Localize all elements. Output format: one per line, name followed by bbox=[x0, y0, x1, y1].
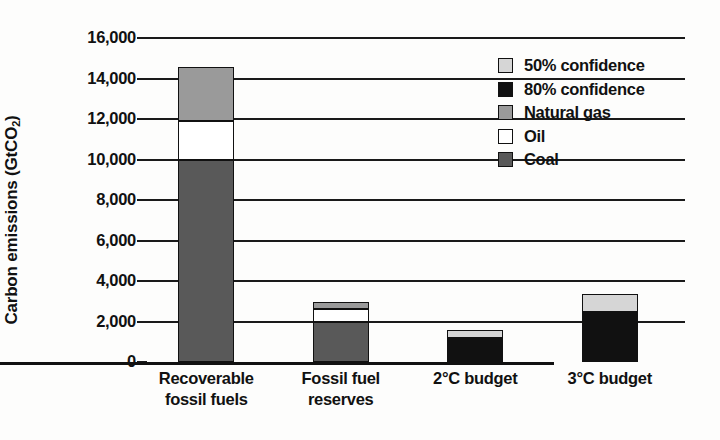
bar-segment[interactable] bbox=[582, 294, 638, 312]
y-axis-tick-mark bbox=[137, 37, 147, 39]
y-axis-tick-mark bbox=[137, 159, 147, 161]
y-axis-tick-label: 2,000 bbox=[96, 312, 136, 331]
legend-item[interactable]: Oil bbox=[498, 125, 698, 149]
chart-container: Carbon emissions (GtCO2) 16,00014,00012,… bbox=[0, 0, 720, 440]
x-axis-label-line: Fossil fuel bbox=[274, 368, 409, 389]
bar-stack[interactable] bbox=[313, 302, 369, 362]
bar-segment[interactable] bbox=[178, 160, 234, 362]
x-axis-label-line: Recoverable bbox=[139, 368, 274, 389]
gridline bbox=[147, 37, 685, 39]
y-axis-tick-label: 4,000 bbox=[96, 271, 136, 290]
legend-swatch-icon bbox=[498, 105, 513, 120]
legend-item[interactable]: Coal bbox=[498, 148, 698, 172]
legend-swatch-icon bbox=[498, 152, 513, 167]
y-axis-tick-mark bbox=[137, 280, 147, 282]
legend-swatch-icon bbox=[498, 82, 513, 97]
bar-stack[interactable] bbox=[582, 294, 638, 362]
chart-legend: 50% confidence80% confidenceNatural gasO… bbox=[498, 54, 698, 172]
x-axis-label-line: fossil fuels bbox=[139, 389, 274, 410]
legend-item[interactable]: Natural gas bbox=[498, 101, 698, 125]
y-axis-tick-label: 12,000 bbox=[87, 109, 136, 128]
y-axis-tick-mark bbox=[137, 240, 147, 242]
bar-segment[interactable] bbox=[313, 322, 369, 362]
x-axis-category-label: Recoverablefossil fuels bbox=[139, 368, 274, 410]
y-axis-tick-labels: 16,00014,00012,00010,0008,0006,0004,0002… bbox=[28, 0, 136, 440]
y-axis-tick-label: 8,000 bbox=[96, 190, 136, 209]
legend-label: 50% confidence bbox=[524, 56, 645, 75]
y-axis-tick-mark bbox=[137, 118, 147, 120]
legend-swatch-icon bbox=[498, 58, 513, 73]
bar-segment[interactable] bbox=[447, 330, 503, 338]
bar-segment[interactable] bbox=[582, 312, 638, 362]
bar-segment[interactable] bbox=[447, 338, 503, 362]
x-axis-label-line: reserves bbox=[274, 389, 409, 410]
legend-swatch-icon bbox=[498, 129, 513, 144]
x-axis-line bbox=[0, 362, 554, 365]
y-axis-tick-mark bbox=[137, 78, 147, 80]
y-axis-tick-label: 10,000 bbox=[87, 150, 136, 169]
bar-stack[interactable] bbox=[447, 330, 503, 362]
legend-label: 80% confidence bbox=[524, 80, 645, 99]
x-axis-tick-labels: Recoverablefossil fuelsFossil fuelreserv… bbox=[147, 368, 685, 438]
y-axis-title-main: Carbon emissions (GtCO bbox=[2, 127, 21, 325]
y-axis-tick-mark bbox=[137, 321, 147, 323]
x-axis-label-line: 3°C budget bbox=[543, 368, 678, 389]
bar-stack[interactable] bbox=[178, 67, 234, 362]
x-axis-category-label: 2°C budget bbox=[408, 368, 543, 389]
x-axis-category-label: Fossil fuelreserves bbox=[274, 368, 409, 410]
y-axis-tick-label: 14,000 bbox=[87, 69, 136, 88]
bar-segment[interactable] bbox=[313, 302, 369, 309]
x-axis-category-label: 3°C budget bbox=[543, 368, 678, 389]
bar-segment[interactable] bbox=[313, 309, 369, 322]
y-axis-title-subscript: 2 bbox=[10, 121, 22, 127]
legend-item[interactable]: 50% confidence bbox=[498, 54, 698, 78]
bar-segment[interactable] bbox=[178, 121, 234, 160]
y-axis-tick-label: 6,000 bbox=[96, 231, 136, 250]
x-axis-label-line: 2°C budget bbox=[408, 368, 543, 389]
legend-item[interactable]: 80% confidence bbox=[498, 78, 698, 102]
legend-label: Coal bbox=[524, 150, 559, 169]
legend-label: Natural gas bbox=[524, 103, 611, 122]
y-axis-tick-label: 16,000 bbox=[87, 28, 136, 47]
bar-segment[interactable] bbox=[178, 67, 234, 121]
legend-label: Oil bbox=[524, 127, 545, 146]
y-axis-tick-mark bbox=[137, 199, 147, 201]
